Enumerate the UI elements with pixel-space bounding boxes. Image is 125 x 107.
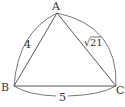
triangle-diagram: A B C 4 √ 21 5: [0, 0, 125, 107]
vertex-label-b: B: [1, 81, 9, 94]
side-label-ab: 4: [24, 38, 31, 51]
side-label-ac: 21: [90, 37, 103, 48]
vertex-label-c: C: [116, 84, 124, 97]
side-label-bc: 5: [59, 91, 66, 104]
vertex-label-a: A: [51, 0, 61, 13]
side-ab: [14, 13, 57, 86]
arc-bc-left: [14, 86, 56, 96]
arc-bc-right: [68, 86, 116, 96]
